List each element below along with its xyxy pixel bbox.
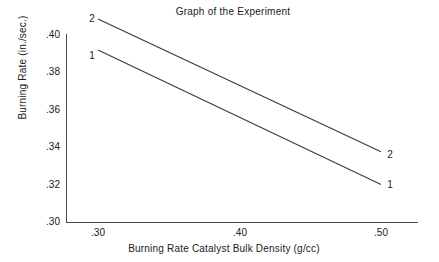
plot-area <box>0 0 439 262</box>
series-line-1 <box>98 50 381 185</box>
series-2-label-right: 2 <box>384 150 396 160</box>
chart-figure: Graph of the Experiment Burning Rate (in… <box>0 0 439 262</box>
series-line-2 <box>98 19 381 152</box>
series-2-label-left: 2 <box>86 14 98 24</box>
series-1-label-left: 1 <box>86 51 98 61</box>
series-lines <box>98 19 381 184</box>
series-1-label-right: 1 <box>384 180 396 190</box>
